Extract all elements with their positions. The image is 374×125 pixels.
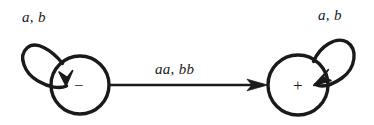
state-symbol-plus: + <box>293 77 303 94</box>
transition-minus-to-plus-label: aa, bb <box>155 62 194 77</box>
state-diagram-figure: a, b aa, bb a, b − + <box>0 0 374 125</box>
self-loop-minus-arrowhead <box>59 71 73 86</box>
self-loop-minus-label: a, b <box>22 10 46 25</box>
self-loop-plus-label: a, b <box>318 8 342 23</box>
state-symbol-minus: − <box>74 77 84 94</box>
